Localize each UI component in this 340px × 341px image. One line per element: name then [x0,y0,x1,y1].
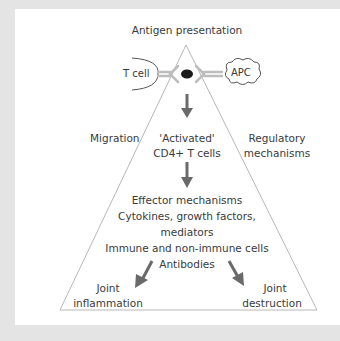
antigen-icon [181,70,193,79]
effector-line: Effector mechanisms [132,192,243,208]
arrow-down-icon [181,94,193,118]
t-cell-receptor-icon [158,66,178,82]
arrow-down-left-icon [135,261,152,288]
effector-line: Antibodies [159,256,214,272]
t-cell-label: T cell [123,66,150,82]
joint-inflammation-line1: Joint [96,280,119,296]
arrow-down-icon [181,162,193,188]
activated-label: 'Activated' [159,130,214,146]
effector-line: mediators [160,224,213,240]
joint-inflammation-line2: inflammation [73,295,143,311]
arrow-down-right-icon [229,261,244,286]
diagram-title: Antigen presentation [132,22,242,38]
joint-destruction-line2: destruction [242,295,302,311]
joint-destruction-line1: Joint [263,280,286,296]
migration-label: Migration [90,130,140,146]
effector-line: Cytokines, growth factors, [118,208,256,224]
effector-line: Immune and non-immune cells [105,240,268,256]
apc-label: APC [231,65,251,81]
regulatory-label-line2: mechanisms [244,145,310,161]
cd4-t-cells-label: CD4+ T cells [153,145,221,161]
pyramid-diagram [0,0,340,341]
regulatory-label-line1: Regulatory [248,130,305,146]
